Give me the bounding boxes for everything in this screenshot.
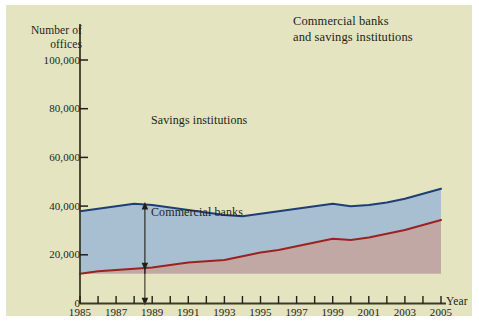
- x-tick-label-1993: 1993: [204, 306, 244, 318]
- y-tick-label-100000: 100,000: [14, 54, 80, 66]
- annotation-commercial-banks: Commercial banks: [151, 205, 243, 220]
- chart-panel: Number of offices 100,000 80,000 60,000 …: [6, 5, 472, 316]
- x-tick-label-2001: 2001: [349, 306, 389, 318]
- y-axis-title-line1: Number of: [0, 24, 82, 36]
- chart-title-line2: and savings institutions: [293, 30, 413, 45]
- x-tick-label-1995: 1995: [241, 306, 281, 318]
- y-tick-label-40000: 40,000: [14, 200, 80, 212]
- x-axis-title: Year: [446, 295, 468, 307]
- x-tick-label-2005: 2005: [421, 306, 461, 318]
- x-tick-label-2003: 2003: [385, 306, 425, 318]
- x-tick-label-1991: 1991: [168, 306, 208, 318]
- x-tick-label-1989: 1989: [132, 306, 172, 318]
- x-axis-ticks: [80, 296, 441, 304]
- y-tick-label-60000: 60,000: [14, 151, 80, 163]
- y-tick-label-80000: 80,000: [14, 102, 80, 114]
- annotation-savings-institutions: Savings institutions: [151, 113, 247, 128]
- x-tick-label-1985: 1985: [60, 306, 100, 318]
- figure-root: Number of offices 100,000 80,000 60,000 …: [0, 0, 479, 328]
- x-tick-label-1999: 1999: [313, 306, 353, 318]
- x-tick-label-1987: 1987: [96, 306, 136, 318]
- chart-title-line1: Commercial banks: [293, 14, 389, 29]
- y-axis-title-line2: offices: [0, 38, 82, 50]
- y-tick-label-20000: 20,000: [14, 248, 80, 260]
- x-tick-label-1997: 1997: [277, 306, 317, 318]
